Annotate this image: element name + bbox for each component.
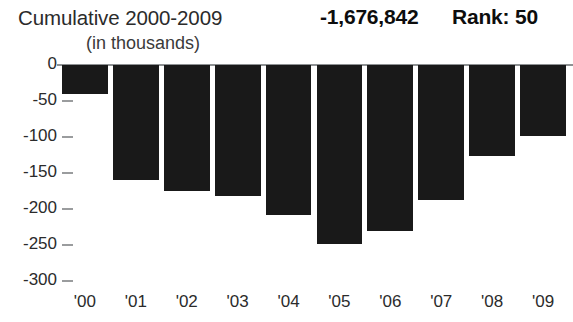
bar-09[interactable] [520, 65, 566, 136]
x-axis-tick-label: '02 [164, 292, 210, 312]
y-axis-tick-label: -300 [0, 270, 57, 290]
x-axis-tick-label: '00 [62, 292, 108, 312]
y-axis-tick-mark [62, 136, 73, 138]
y-axis-tick-mark [62, 280, 73, 282]
y-axis-tick-mark [62, 172, 73, 174]
y-axis-tick-label: -200 [0, 198, 57, 218]
y-axis-tick-mark [62, 244, 73, 246]
x-axis-tick-label: '04 [266, 292, 312, 312]
y-axis-tick-label: -250 [0, 234, 57, 254]
bar-02[interactable] [164, 65, 210, 191]
bar-03[interactable] [215, 65, 261, 196]
x-axis-tick-label: '05 [317, 292, 363, 312]
y-axis-tick-mark [62, 208, 73, 210]
y-axis-tick-label: -150 [0, 162, 57, 182]
bar-01[interactable] [113, 65, 159, 180]
x-axis-tick-label: '07 [418, 292, 464, 312]
x-axis-tick-label: '01 [113, 292, 159, 312]
y-axis-tick-label: -100 [0, 126, 57, 146]
bar-07[interactable] [418, 65, 464, 200]
x-axis-tick-label: '03 [215, 292, 261, 312]
y-axis-tick-mark [62, 100, 73, 102]
bar-04[interactable] [266, 65, 312, 215]
y-axis-tick-label: 0 [0, 54, 57, 74]
x-axis-tick-label: '09 [520, 292, 566, 312]
bar-05[interactable] [317, 65, 363, 244]
x-axis-tick-label: '06 [367, 292, 413, 312]
bar-06[interactable] [367, 65, 413, 231]
bar-08[interactable] [469, 65, 515, 156]
y-axis-tick-label: -50 [0, 90, 57, 110]
bar-chart: 0-50-100-150-200-250-300 '00'01'02'03'04… [0, 0, 573, 322]
bar-00[interactable] [62, 65, 108, 94]
x-axis-tick-label: '08 [469, 292, 515, 312]
